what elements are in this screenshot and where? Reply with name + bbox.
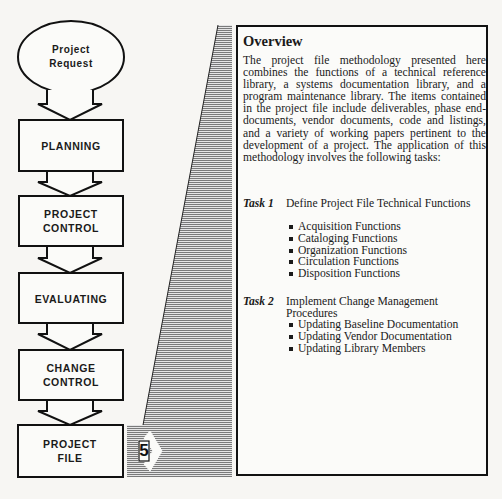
- task-items: Updating Baseline Documentation Updating…: [286, 319, 458, 354]
- task-item: Cataloging Functions: [286, 233, 407, 245]
- task-item: Disposition Functions: [286, 268, 407, 280]
- arrow-down-icon: [38, 400, 102, 425]
- task-title: Implement Change Management Procedures: [286, 296, 486, 320]
- step-label-line1: CHANGE: [19, 361, 123, 375]
- step-label-line1: PROJECT: [18, 437, 122, 451]
- task-title: Define Project File Technical Functions: [286, 198, 486, 210]
- arrow-down-icon: [38, 90, 102, 120]
- task-item: Updating Vendor Documentation: [286, 331, 458, 343]
- task-label: Task 1: [243, 198, 274, 210]
- start-label: Project Request: [19, 43, 123, 71]
- step-label-project-control: PROJECT CONTROL: [19, 207, 123, 235]
- step-label-project-file: PROJECT FILE: [18, 437, 122, 465]
- step-label-line2: CONTROL: [19, 375, 123, 389]
- step-label-change-control: CHANGE CONTROL: [19, 361, 123, 389]
- step-label-line2: CONTROL: [19, 221, 123, 235]
- overview-body: The project file methodology presented h…: [243, 55, 486, 164]
- step-label-line1: PLANNING: [19, 139, 123, 153]
- overview-panel: Overview The project file methodology pr…: [236, 25, 488, 476]
- step-label-planning: PLANNING: [19, 139, 123, 153]
- step-label-line1: PROJECT: [19, 207, 123, 221]
- shaded-connector: [127, 25, 232, 477]
- start-label-line2: Request: [19, 57, 123, 71]
- task-items: Acquisition Functions Cataloging Functio…: [286, 221, 407, 280]
- step-label-line1: EVALUATING: [19, 292, 123, 306]
- arrow-down-icon: [38, 246, 102, 273]
- arrow-down-icon: [38, 323, 102, 350]
- overview-title: Overview: [243, 33, 303, 50]
- step-label-evaluating: EVALUATING: [19, 292, 123, 306]
- step-marker-number: 5: [139, 441, 149, 461]
- start-label-line1: Project: [19, 43, 123, 57]
- step-label-line2: FILE: [18, 451, 122, 465]
- task-item: Updating Library Members: [286, 343, 458, 355]
- arrow-down-icon: [38, 171, 102, 196]
- task-label: Task 2: [243, 296, 274, 308]
